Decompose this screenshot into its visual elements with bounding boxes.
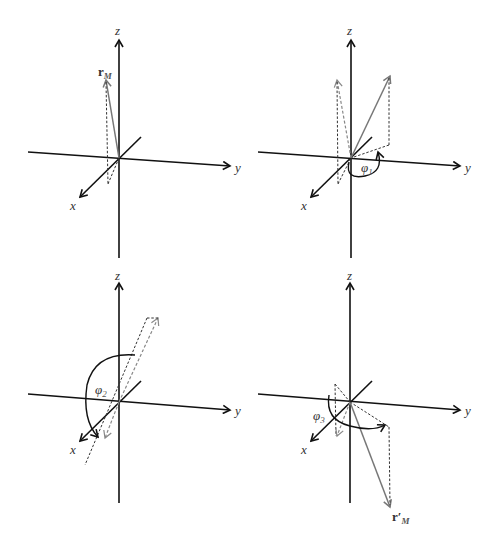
projection-line [335, 384, 336, 436]
y-axis [28, 152, 230, 166]
projection-line [337, 82, 338, 184]
projection-line [350, 402, 389, 427]
y-axis-label: y [233, 160, 241, 175]
previous-vector-ghost [337, 402, 350, 436]
y-axis-label: y [463, 160, 471, 175]
z-axis-label: z [346, 268, 352, 283]
y-axis [28, 394, 230, 410]
rotation-diagram: z y x rM z y x φ1 z y x φ2 [0, 0, 493, 542]
original-vector-ghost [337, 80, 351, 158]
angle-label-phi3: φ3 [313, 408, 325, 425]
x-axis-label: x [300, 442, 307, 457]
vector-label-r-m-prime: r′M [392, 509, 410, 526]
x-axis-label: x [69, 442, 76, 457]
rotated-vector [119, 318, 158, 402]
vector-label-r-m: rM [98, 64, 113, 81]
panel-2: z y x φ1 [258, 23, 471, 258]
y-axis-label: y [463, 403, 471, 418]
angle-label-phi2: φ2 [95, 382, 107, 399]
panel-3: z y x φ2 [28, 268, 241, 503]
projection-line [106, 82, 108, 184]
x-axis [80, 137, 141, 197]
projection-line [108, 158, 119, 184]
z-axis-label: z [114, 23, 120, 38]
z-axis-label: z [346, 23, 352, 38]
y-axis [258, 152, 460, 166]
x-axis [80, 381, 141, 441]
rotated-vector [351, 76, 390, 158]
x-axis-label: x [69, 198, 76, 213]
vector-projection [105, 402, 119, 438]
angle-label-phi1: φ1 [361, 160, 373, 177]
panel-1: z y x rM [28, 23, 241, 258]
projection-line [335, 384, 350, 402]
x-axis-label: x [300, 198, 307, 213]
projection-line [389, 427, 390, 505]
z-axis-label: z [114, 268, 120, 283]
y-axis-label: y [233, 403, 241, 418]
vector-r-m [106, 80, 119, 158]
vector-r-m-prime [350, 402, 390, 507]
panel-4: z y x φ3 r′M [258, 268, 471, 526]
rotation-arc-phi2 [86, 355, 135, 437]
